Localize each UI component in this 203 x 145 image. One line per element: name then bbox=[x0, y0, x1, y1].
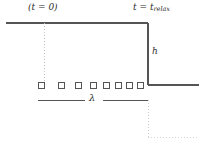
height-label: h bbox=[152, 47, 158, 56]
diagram-canvas bbox=[0, 0, 203, 145]
wavelength-label: λ bbox=[89, 93, 95, 103]
initial-time-label: (t = 0) bbox=[28, 3, 58, 12]
node-marker bbox=[126, 82, 132, 88]
relaxation-diagram: (t = 0) t = trelax h λ bbox=[0, 0, 203, 145]
node-marker bbox=[115, 82, 121, 88]
node-marker bbox=[103, 82, 109, 88]
node-marker bbox=[90, 82, 96, 88]
relaxation-time-subscript: relax bbox=[154, 5, 171, 13]
node-marker bbox=[58, 82, 64, 88]
node-marker bbox=[137, 82, 143, 88]
relaxation-time-label: t = trelax bbox=[133, 3, 170, 13]
marker-row bbox=[38, 82, 143, 88]
node-marker bbox=[75, 82, 81, 88]
node-marker bbox=[38, 82, 44, 88]
relaxation-time-prefix: t = t bbox=[133, 2, 154, 12]
